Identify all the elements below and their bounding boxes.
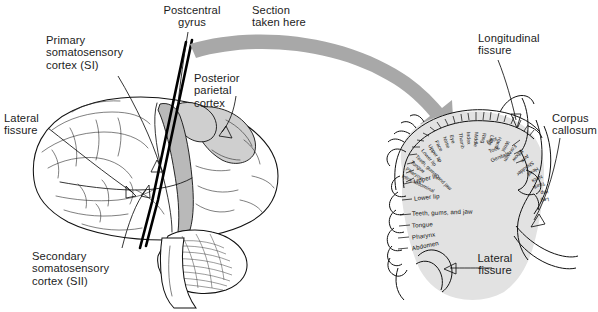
label-corpus-callosum: Corpus callosum <box>552 112 598 137</box>
homunculus-label: Hip <box>540 188 549 195</box>
homunculus-label: Middle <box>473 132 479 147</box>
label-lateral-fissure-left: Lateral fissure <box>4 112 64 137</box>
cerebrum-outline <box>33 97 278 240</box>
homunculus-label: Index <box>465 132 471 145</box>
label-primary-somatosensory-cortex: Primary somatosensory cortex (SI) <box>46 34 156 71</box>
homunculus-label: Eye <box>449 134 457 144</box>
label-longitudinal-fissure: Longitudinal fissure <box>478 32 578 57</box>
homunculus-label: Leg <box>540 196 549 203</box>
figure-canvas: Postcentral gyrus Primary somatosensory … <box>0 0 598 312</box>
label-posterior-parietal-cortex: Posterior parietal cortex <box>194 72 274 109</box>
label-secondary-somatosensory-cortex: Secondary somatosensory cortex (SII) <box>32 250 152 287</box>
label-section-taken-here: Section taken here <box>252 4 342 29</box>
label-postcentral-gyrus: Postcentral gyrus <box>150 4 234 29</box>
label-lateral-fissure-right: Lateral fissure <box>466 252 524 277</box>
inferior-margin <box>396 268 404 300</box>
